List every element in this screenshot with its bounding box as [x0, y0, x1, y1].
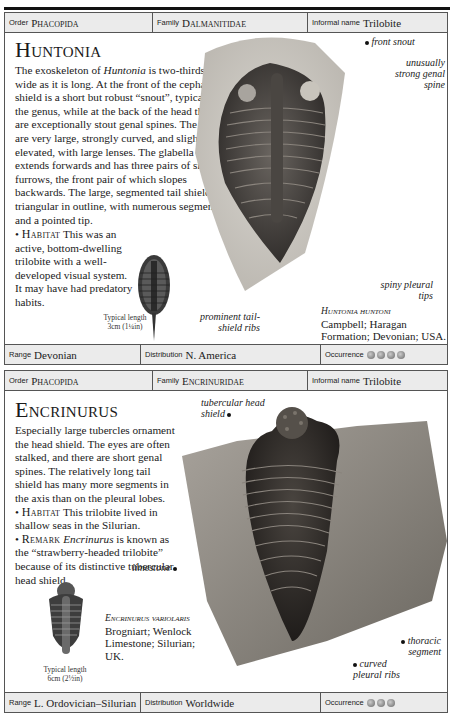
specimen-details: Campbell; Haragan Formation; Devonian; U… [321, 318, 446, 343]
order-value: Phacopida [31, 375, 78, 387]
annotation-genal-spine: unusually strong genal spine [385, 57, 445, 90]
occurrence-dot-icon [387, 699, 395, 707]
specimen-caption: Encrinurus variolaris Brogniart; Wenlock… [105, 611, 205, 662]
occurrence-rating [367, 699, 395, 707]
leader-dot [227, 413, 231, 417]
occurrence-cell: Occurrence [321, 693, 447, 712]
occurrence-rating [367, 351, 405, 359]
family-value: Encrinuridae [182, 375, 244, 387]
occurrence-dot-icon [387, 351, 395, 359]
entry-body: Encrinurus Especially large tubercles or… [5, 391, 447, 692]
range-value: L. Ordovician–Silurian [34, 697, 136, 709]
distribution-value: N. America [186, 349, 237, 361]
genus-name: Huntonia [104, 64, 146, 76]
range-label: Range [9, 350, 31, 359]
annotation-tubercular-head-shield: tubercular head shield [201, 397, 291, 419]
bullet-icon: • [15, 506, 22, 518]
annotation-text: unusually strong genal spine [395, 57, 445, 90]
annotation-text: curved pleural ribs [353, 658, 400, 680]
specimen-name: Encrinurus variolaris [105, 613, 190, 623]
top-rule [4, 7, 450, 10]
order-cell: Order Phacopida [5, 13, 153, 32]
entry-huntonia: Order Phacopida Family Dalmanitidae Info… [4, 12, 448, 365]
entry-encrinurus: Order Phacopida Family Encrinuridae Info… [4, 370, 448, 713]
order-label: Order [9, 18, 28, 27]
typical-length-value: 3cm (1¼in) [95, 322, 155, 331]
specimen-name: Huntonia huntoni [321, 306, 391, 316]
family-label: Family [157, 18, 179, 27]
distribution-cell: Distribution N. America [141, 345, 321, 364]
typical-length-label: Typical length [33, 665, 97, 674]
typical-length-value: 6cm (2½in) [33, 674, 97, 683]
typical-length: Typical length 3cm (1¼in) [95, 313, 155, 331]
bullet-icon: • [15, 533, 22, 545]
range-label: Range [9, 698, 31, 707]
informal-name-cell: Informal name Trilobite [308, 13, 447, 32]
entry-title: Encrinurus [15, 397, 118, 423]
classification-bar: Order Phacopida Family Dalmanitidae Info… [5, 13, 447, 33]
bullet-icon: • [15, 228, 22, 240]
annotation-tail-shield-ribs: prominent tail-shield ribs [190, 311, 260, 333]
leader-dot [353, 663, 357, 667]
annotation-text: limestone [132, 562, 170, 573]
entry-title: Huntonia [15, 37, 101, 63]
annotation-thoracic-segment: thoracic segment [399, 635, 441, 657]
range-cell: Range L. Ordovician–Silurian [5, 693, 141, 712]
occurrence-cell: Occurrence [321, 345, 447, 364]
description-text: Especially large tubercles ornament the … [15, 424, 175, 504]
habitat: • Habitat This was an active, bottom-dwe… [15, 228, 135, 310]
description-text: The exoskeleton of [15, 64, 104, 76]
occurrence-dot-icon [397, 351, 405, 359]
typical-length-label: Typical length [95, 313, 155, 322]
annotation-limestone: limestone [132, 562, 177, 573]
order-cell: Order Phacopida [5, 371, 153, 390]
distribution-value: Worldwide [186, 697, 235, 709]
occurrence-dot-icon [377, 699, 385, 707]
encrinurus-fossil-photo [177, 401, 447, 671]
occurrence-dot-icon [367, 351, 375, 359]
distribution-label: Distribution [145, 698, 183, 707]
specimen-details: Brogniart; Wenlock Limestone; Silurian; … [105, 625, 195, 662]
informal-name-value: Trilobite [363, 375, 401, 387]
annotation-text: prominent tail-shield ribs [200, 311, 260, 333]
range-bar: Range Devonian Distribution N. America O… [5, 344, 447, 364]
family-cell: Family Encrinuridae [153, 371, 308, 390]
range-value: Devonian [34, 349, 77, 361]
informal-name-value: Trilobite [363, 17, 401, 29]
range-bar: Range L. Ordovician–Silurian Distributio… [5, 692, 447, 712]
family-label: Family [157, 376, 179, 385]
informal-name-cell: Informal name Trilobite [308, 371, 447, 390]
family-cell: Family Dalmanitidae [153, 13, 308, 32]
order-value: Phacopida [31, 17, 78, 29]
annotation-text: thoracic segment [408, 635, 441, 657]
typical-length: Typical length 6cm (2½in) [33, 665, 97, 683]
annotation-text: tubercular head shield [201, 397, 265, 419]
informal-name-label: Informal name [312, 376, 360, 385]
habitat-label: Habitat [22, 505, 61, 519]
genus-name: Encrinurus [63, 533, 113, 545]
specimen-caption: Huntonia huntoni Campbell; Haragan Forma… [321, 304, 446, 343]
entry-body: Huntonia The exoskeleton of Huntonia is … [5, 33, 447, 344]
leader-dot [401, 640, 405, 644]
leader-dot [173, 567, 177, 571]
family-value: Dalmanitidae [182, 17, 246, 29]
annotation-curved-pleural-ribs: curved pleural ribs [353, 658, 409, 680]
occurrence-label: Occurrence [325, 350, 364, 359]
distribution-label: Distribution [145, 350, 183, 359]
annotation-front-snout: front snout [365, 36, 415, 47]
occurrence-dot-icon [377, 351, 385, 359]
trilobite-illustration [43, 581, 89, 661]
annotation-spiny-pleural-tips: spiny pleural tips [378, 279, 433, 301]
range-cell: Range Devonian [5, 345, 141, 364]
occurrence-dot-icon [367, 699, 375, 707]
remark-label: Remark [22, 532, 61, 546]
habitat-label: Habitat [22, 227, 61, 241]
distribution-cell: Distribution Worldwide [141, 693, 321, 712]
huntonia-fossil-photo [185, 33, 355, 293]
classification-bar: Order Phacopida Family Encrinuridae Info… [5, 371, 447, 391]
annotation-text: spiny pleural tips [381, 279, 434, 301]
occurrence-label: Occurrence [325, 698, 364, 707]
informal-name-label: Informal name [312, 18, 360, 27]
leader-dot [365, 41, 369, 45]
order-label: Order [9, 376, 28, 385]
